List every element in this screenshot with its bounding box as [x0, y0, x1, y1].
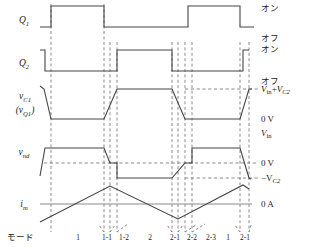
- right-level-labels: オン オフ オン オフ Vin+VC2 0 V Vin 0 V −VC2 0 A: [261, 3, 291, 209]
- q1-trace: [40, 6, 254, 27]
- mode-label-1b: 1: [226, 233, 230, 242]
- mode-label-1-2: 1-2: [119, 233, 129, 242]
- waveform-vnd: [40, 148, 251, 179]
- mode-label-1: 1: [76, 233, 80, 242]
- waveform-figure: Q1 Q2 vC1 (vQ1) vnd im オン オフ オン オフ Vin+V…: [0, 0, 309, 247]
- leader-1-1: [99, 225, 104, 232]
- label-q1-off: オフ: [261, 33, 279, 43]
- mode-axis: モード 1 1-1 1-2 2 2-1 2-2 2-3 1 2-1: [7, 232, 250, 242]
- waveform-q2: [40, 50, 249, 71]
- signal-labels: Q1 Q2 vC1 (vQ1) vnd im: [16, 15, 35, 211]
- mode-label-1-1: 1-1: [102, 233, 112, 242]
- level-gridlines: [44, 89, 258, 178]
- label-vc1-zero: 0 V: [261, 114, 275, 124]
- leader-1-1b: [110, 225, 115, 232]
- label-q2-on: オン: [261, 44, 279, 54]
- mode-label-2-3: 2-3: [206, 233, 216, 242]
- mode-label-2: 2: [148, 233, 152, 242]
- signal-label-q1: Q1: [19, 15, 29, 27]
- vc1-trace: [40, 86, 252, 119]
- vnd-trace: [40, 148, 251, 179]
- label-vc1-high: Vin+VC2: [261, 84, 291, 95]
- leader-2-3: [192, 224, 205, 232]
- label-im-zero: 0 A: [261, 199, 274, 209]
- leader-1-2: [117, 224, 128, 232]
- label-vnd-zero: 0 V: [261, 158, 275, 168]
- signal-label-vq1: (vQ1): [16, 105, 35, 117]
- leader-2-1: [167, 225, 172, 232]
- label-vnd-vin: Vin: [261, 128, 272, 139]
- q2-trace: [40, 50, 249, 71]
- label-q1-on: オン: [261, 3, 279, 13]
- label-vnd-neg: −VC2: [261, 173, 281, 184]
- mode-label-2-1: 2-1: [170, 233, 180, 242]
- signal-label-im: im: [20, 199, 28, 211]
- waveform-q1: [40, 6, 254, 27]
- signal-label-q2: Q2: [19, 58, 30, 70]
- signal-label-vnd: vnd: [19, 147, 31, 159]
- waveform-vc1: [40, 86, 252, 119]
- signal-label-vc1: vC1: [19, 91, 31, 103]
- mode-leader-lines: [99, 224, 251, 232]
- mode-label-2-2: 2-2: [187, 233, 197, 242]
- mode-axis-title: モード: [7, 232, 34, 242]
- leader-2-1b: [178, 225, 183, 232]
- waveform-im: [40, 185, 252, 222]
- leader-2-1c: [235, 225, 240, 232]
- mode-label-2-1b: 2-1: [240, 233, 250, 242]
